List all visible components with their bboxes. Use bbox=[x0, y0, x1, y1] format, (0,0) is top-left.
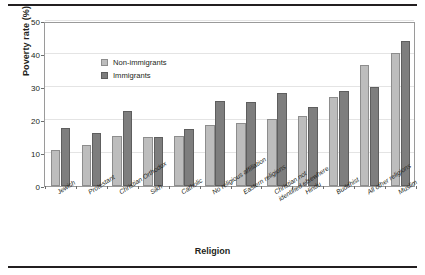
bar bbox=[184, 129, 194, 186]
top-rule bbox=[8, 4, 417, 6]
bar bbox=[174, 136, 184, 186]
legend-item-immigrants: Immigrants bbox=[101, 71, 167, 80]
legend-swatch-icon bbox=[101, 72, 108, 79]
bar bbox=[370, 87, 380, 186]
legend-swatch-icon bbox=[101, 59, 108, 66]
bottom-rule bbox=[8, 266, 417, 268]
bar bbox=[123, 111, 133, 186]
y-tick-mark bbox=[41, 187, 44, 188]
y-tick-label: 10 bbox=[20, 150, 40, 159]
bar bbox=[329, 97, 339, 186]
legend-label: Immigrants bbox=[113, 71, 151, 80]
y-tick-label: 40 bbox=[20, 51, 40, 60]
y-tick-label: 50 bbox=[20, 18, 40, 27]
y-tick-label: 20 bbox=[20, 117, 40, 126]
legend: Non-immigrants Immigrants bbox=[101, 58, 167, 84]
legend-item-non-immigrants: Non-immigrants bbox=[101, 58, 167, 67]
bar bbox=[205, 125, 215, 186]
bar bbox=[92, 133, 102, 186]
bars-layer bbox=[45, 23, 414, 186]
bar bbox=[339, 91, 349, 186]
bar bbox=[61, 128, 71, 186]
bar bbox=[360, 65, 370, 186]
bar bbox=[82, 145, 92, 186]
legend-label: Non-immigrants bbox=[113, 58, 167, 67]
y-tick-label: 0 bbox=[20, 183, 40, 192]
x-axis-tick-labels: JewishProtestantChristian OrthodoxSikhCa… bbox=[44, 189, 415, 245]
y-tick-label: 30 bbox=[20, 84, 40, 93]
bar bbox=[51, 150, 61, 186]
x-axis-title: Religion bbox=[0, 246, 425, 256]
bar bbox=[215, 101, 225, 186]
plot-area: Non-immigrants Immigrants bbox=[44, 22, 415, 187]
gridline bbox=[45, 20, 414, 21]
bar bbox=[391, 53, 401, 186]
figure: Poverty rate (%) 01020304050 Non-immigra… bbox=[0, 0, 425, 275]
